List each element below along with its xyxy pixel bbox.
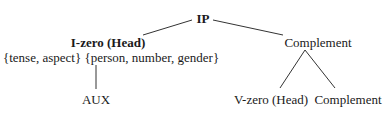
node-complement: Complement <box>284 35 351 50</box>
node-complement-inner: Complement <box>314 92 381 107</box>
edge-complement-to-complement <box>305 50 335 88</box>
edge-ip-to-i-zero <box>143 20 192 35</box>
node-aux: AUX <box>82 92 110 107</box>
node-ip: IP <box>197 11 210 26</box>
node-i-zero-head: I-zero (Head) <box>71 35 145 50</box>
edge-complement-to-v-zero <box>280 50 305 88</box>
node-i-zero-features: {tense, aspect} {person, number, gender} <box>3 50 219 65</box>
node-v-zero-head: V-zero (Head) <box>234 92 308 107</box>
edge-ip-to-complement <box>213 20 283 35</box>
